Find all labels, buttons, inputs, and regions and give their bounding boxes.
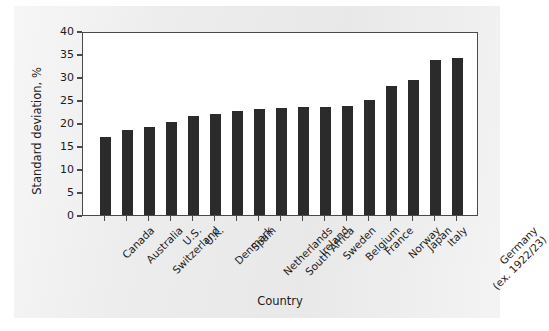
bar bbox=[188, 116, 199, 215]
x-axis-tick-label: Spain bbox=[249, 224, 279, 254]
x-axis-tick bbox=[456, 216, 457, 221]
plot-area bbox=[82, 32, 478, 216]
x-axis-tick bbox=[434, 216, 435, 221]
x-axis-tick bbox=[302, 216, 303, 221]
y-axis-tick-label: 0 bbox=[67, 208, 74, 224]
y-axis: Standard deviation, % 0510152025303540 bbox=[14, 32, 82, 216]
x-axis-tick bbox=[214, 216, 215, 221]
bar bbox=[408, 80, 419, 215]
bar bbox=[364, 100, 375, 215]
bar bbox=[320, 107, 331, 215]
x-axis-tick bbox=[324, 216, 325, 221]
x-axis-tick bbox=[280, 216, 281, 221]
x-axis-title: Country bbox=[82, 294, 478, 308]
x-axis-tick bbox=[412, 216, 413, 221]
bar bbox=[144, 127, 155, 215]
x-axis-tick bbox=[148, 216, 149, 221]
x-axis-tick bbox=[368, 216, 369, 221]
y-axis-tick-label: 30 bbox=[60, 70, 74, 86]
bar bbox=[386, 86, 397, 215]
x-axis-tick-label: Germany(ex. 1922/23) bbox=[481, 224, 549, 292]
x-axis-tick bbox=[236, 216, 237, 221]
y-axis-tick-label: 35 bbox=[60, 47, 74, 63]
x-axis-tick bbox=[126, 216, 127, 221]
bars-container bbox=[83, 33, 477, 215]
y-axis-tick-label: 15 bbox=[60, 139, 74, 155]
bar bbox=[232, 111, 243, 215]
y-axis-tick-label: 10 bbox=[60, 162, 74, 178]
x-axis-tick-label-line: Spain bbox=[249, 224, 279, 254]
bar bbox=[276, 108, 287, 215]
y-axis-tick-label: 40 bbox=[60, 24, 74, 40]
bar bbox=[430, 60, 441, 215]
y-axis-tick-label: 5 bbox=[67, 185, 74, 201]
bar bbox=[298, 107, 309, 215]
bar bbox=[452, 58, 463, 215]
bar bbox=[342, 106, 353, 215]
bar bbox=[100, 137, 111, 215]
bar bbox=[254, 109, 265, 215]
figure-panel: Standard deviation, % 0510152025303540 C… bbox=[14, 6, 500, 318]
bar bbox=[210, 114, 221, 215]
x-axis-tick bbox=[390, 216, 391, 221]
bar bbox=[122, 130, 133, 215]
x-axis-tick bbox=[170, 216, 171, 221]
x-axis-tick bbox=[104, 216, 105, 221]
x-axis-tick bbox=[192, 216, 193, 221]
bar bbox=[166, 122, 177, 215]
x-axis-tick bbox=[346, 216, 347, 221]
x-axis-tick bbox=[258, 216, 259, 221]
y-axis-title: Standard deviation, % bbox=[30, 46, 44, 216]
y-axis-tick-label: 25 bbox=[60, 93, 74, 109]
y-axis-tick-label: 20 bbox=[60, 116, 74, 132]
